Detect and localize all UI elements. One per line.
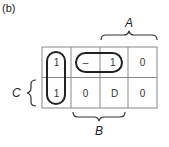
- variable-b-label: B: [95, 124, 103, 138]
- brace-a-icon: [101, 31, 157, 40]
- brace-b-icon: [73, 112, 125, 121]
- brace-c-icon: [27, 80, 36, 106]
- kmap-cell-r0c3: 0: [128, 47, 157, 77]
- variable-a-label: A: [125, 16, 133, 30]
- kmap-cell-r1c1: 0: [71, 78, 100, 108]
- kmap-cell-r0c0: 1: [42, 47, 71, 77]
- kmap-cell-r0c1: –: [71, 47, 100, 77]
- variable-c-label: C: [12, 86, 21, 100]
- kmap-cell-r1c3: 0: [128, 78, 157, 108]
- kmap-cell-r0c2: 1: [100, 47, 129, 77]
- kmap-cell-r1c2: D: [100, 78, 129, 108]
- kmap-cell-r1c0: 1: [42, 78, 71, 108]
